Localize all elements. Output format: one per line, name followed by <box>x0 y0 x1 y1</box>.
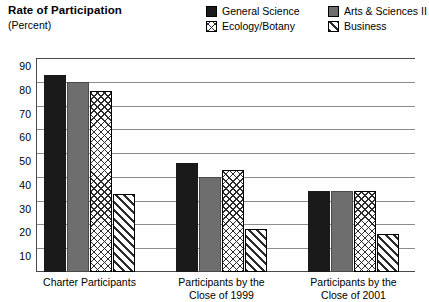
y-axis-tick-label: 50 <box>19 156 31 166</box>
y-axis-tick-label: 80 <box>19 85 31 95</box>
gridline <box>36 82 415 83</box>
legend-item: Business <box>328 21 426 32</box>
legend-swatch-solid-black-icon <box>206 6 217 17</box>
y-axis-tick-label: 90 <box>19 61 31 71</box>
legend-item: Arts & Sciences II <box>328 6 426 17</box>
y-axis-tick-label: 10 <box>19 251 31 261</box>
bar <box>245 229 267 272</box>
y-axis-tick-label: 60 <box>19 132 31 142</box>
x-axis-group-label: Participants by the Close of 1999 <box>154 276 289 301</box>
bar <box>331 191 353 272</box>
legend-label: General Science <box>222 6 300 17</box>
legend-item: Ecology/Botany <box>206 21 328 32</box>
bar <box>113 194 135 272</box>
chart-title: Rate of Participation <box>8 4 122 16</box>
x-axis-group-label: Participants by the Close of 2001 <box>286 276 421 301</box>
bar <box>354 191 376 272</box>
gridline <box>36 58 415 59</box>
chart-legend: General ScienceArts & Sciences IIEcology… <box>206 4 426 34</box>
legend-swatch-solid-gray-icon <box>328 6 339 17</box>
y-axis-tick-label: 70 <box>19 109 31 119</box>
bar <box>44 75 66 272</box>
chart-subtitle: (Percent) <box>8 19 51 31</box>
bar <box>90 91 112 272</box>
legend-label: Ecology/Botany <box>222 21 295 32</box>
legend-label: Arts & Sciences II <box>344 6 427 17</box>
plot-area: 908070605040302010Charter ParticipantsPa… <box>36 58 415 272</box>
legend-label: Business <box>344 21 387 32</box>
legend-swatch-diagonal-icon <box>328 21 339 32</box>
legend-item: General Science <box>206 6 328 17</box>
bar <box>308 191 330 272</box>
bar <box>67 82 89 272</box>
y-axis-tick-label: 30 <box>19 204 31 214</box>
bar <box>377 234 399 272</box>
legend-swatch-crosshatch-icon <box>206 21 217 32</box>
bar <box>176 163 198 272</box>
bar <box>199 177 221 272</box>
participation-bar-chart: Rate of Participation (Percent) General … <box>0 0 429 302</box>
bar <box>222 170 244 272</box>
y-axis-line <box>36 58 37 272</box>
y-axis-tick-label: 20 <box>19 227 31 237</box>
x-axis-group-label: Charter Participants <box>22 276 157 289</box>
y-axis-tick-label: 40 <box>19 180 31 190</box>
